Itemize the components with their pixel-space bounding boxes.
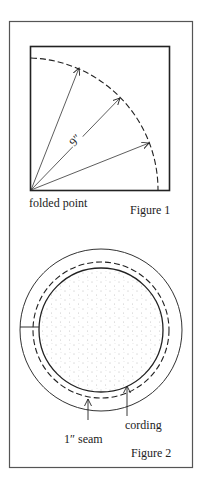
figure-1 [31, 47, 170, 191]
figure-2 [20, 249, 182, 420]
folded-point-label: folded point [29, 196, 87, 211]
diagram-canvas [0, 0, 204, 488]
seam-label: 1″ seam [64, 432, 103, 447]
radius-arrow-3 [31, 143, 149, 190]
radius-arrow-1 [31, 68, 79, 190]
figure-2-caption: Figure 2 [131, 446, 171, 461]
cushion-circle [39, 268, 163, 392]
figure-1-caption: Figure 1 [130, 203, 170, 218]
outer-frame [10, 22, 193, 468]
cording-label: cording [125, 418, 162, 433]
